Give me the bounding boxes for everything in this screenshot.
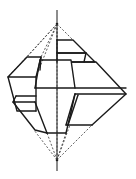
top-construction-lines <box>8 24 95 77</box>
central-block <box>35 60 126 88</box>
lower-left-block <box>13 96 47 133</box>
bottom-center-block <box>47 94 75 133</box>
perspective-blocks-diagram <box>0 0 136 179</box>
top-block <box>57 40 95 62</box>
bottom-construction-lines <box>34 125 92 160</box>
